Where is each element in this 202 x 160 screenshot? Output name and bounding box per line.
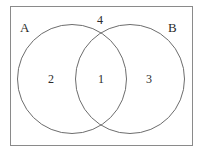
region-count-intersection: 1 (98, 73, 104, 85)
set-label-a: A (20, 21, 29, 34)
region-count-b-only: 3 (146, 73, 152, 85)
set-circle-b (75, 24, 185, 134)
venn-diagram-figure: A B 4 2 1 3 (0, 0, 202, 160)
region-count-outside: 4 (97, 14, 103, 26)
set-label-b: B (168, 21, 177, 34)
region-count-a-only: 2 (48, 73, 54, 85)
